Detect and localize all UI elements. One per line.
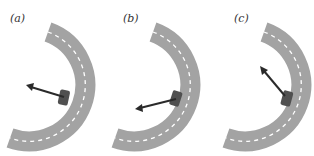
panel-b: (b)	[105, 0, 210, 156]
panel-a: (a)	[0, 0, 105, 156]
road-arc	[10, 32, 85, 141]
car-icon	[57, 89, 70, 106]
arrow-icon	[260, 66, 285, 96]
arrow-icon	[26, 83, 64, 97]
curved-road-diagram-c	[210, 0, 314, 156]
curved-road-diagram-a	[0, 0, 105, 156]
panel-c: (c)	[210, 0, 314, 156]
road-arc	[115, 32, 190, 141]
road-arc	[226, 32, 301, 141]
curved-road-diagram-b	[105, 0, 210, 156]
arrow-icon	[135, 99, 176, 112]
